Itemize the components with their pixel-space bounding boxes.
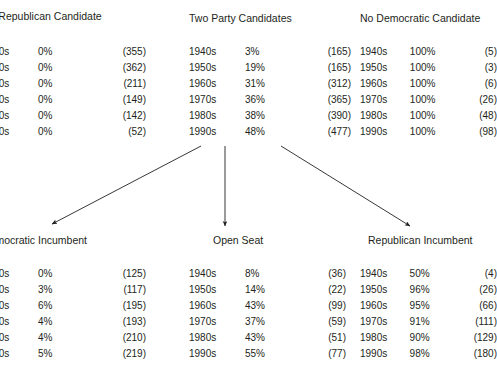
cell-decade: 1980s (189, 330, 245, 346)
cell-decade: 1980s (0, 330, 38, 346)
cell-count: (3) (462, 60, 497, 76)
cell-percent: 14% (245, 282, 301, 298)
cell-percent: 91% (410, 314, 458, 330)
cell-decade: 1950s (360, 282, 410, 298)
cell-decade: 1980s (360, 108, 410, 124)
cell-count: (193) (96, 314, 146, 330)
cell-percent: 6% (38, 298, 96, 314)
table-row: 1950s 19% (165) (189, 60, 351, 76)
cell-percent: 50% (410, 266, 458, 282)
cell-percent: 43% (245, 298, 301, 314)
cell-count: (4) (458, 266, 497, 282)
table-row: 1960s 43% (99) (189, 298, 346, 314)
cell-percent: 5% (38, 346, 96, 362)
arrow-two-party-to-republican-incumbent (281, 146, 410, 226)
cell-percent: 36% (245, 92, 301, 108)
cell-decade: 1990s (189, 124, 245, 140)
cell-count: (129) (458, 330, 497, 346)
cell-count: (355) (96, 44, 146, 60)
cell-percent: 37% (245, 314, 301, 330)
cell-decade: 1940s (360, 266, 410, 282)
arrow-two-party-to-democratic-incumbent (52, 146, 201, 224)
cell-percent: 31% (245, 76, 301, 92)
cell-decade: 1940s (360, 44, 410, 60)
cell-count: (66) (458, 298, 497, 314)
cell-count: (22) (301, 282, 346, 298)
panel-title-no-republican-candidate: No Republican Candidate (0, 10, 146, 22)
cell-percent: 90% (410, 330, 458, 346)
cell-decade: 1970s (0, 92, 38, 108)
cell-percent: 3% (245, 44, 301, 60)
cell-decade: 1990s (189, 346, 245, 362)
cell-count: (390) (301, 108, 351, 124)
cell-percent: 38% (245, 108, 301, 124)
cell-count: (48) (462, 108, 497, 124)
cell-decade: 1940s (0, 266, 38, 282)
cell-count: (77) (301, 346, 346, 362)
cell-decade: 1960s (189, 298, 245, 314)
cell-count: (312) (301, 76, 351, 92)
cell-decade: 1970s (189, 92, 245, 108)
cell-count: (99) (301, 298, 346, 314)
table-row: 1950s 100% (3) (360, 60, 497, 76)
panel-two-party-candidates: Two Party Candidates 1940s 3% (165) 1950… (189, 12, 351, 140)
cell-decade: 1960s (189, 76, 245, 92)
cell-decade: 1980s (0, 108, 38, 124)
table-two-party-candidates: 1940s 3% (165) 1950s 19% (165) 1960s 31%… (189, 44, 351, 140)
table-no-democratic-candidate: 1940s 100% (5) 1950s 100% (3) 1960s 100%… (360, 44, 497, 140)
table-open-seat: 1940s 8% (36) 1950s 14% (22) 1960s 43% (… (189, 266, 346, 362)
cell-percent: 0% (38, 44, 96, 60)
table-row: 1990s 48% (477) (189, 124, 351, 140)
cell-percent: 4% (38, 330, 96, 346)
cell-count: (142) (96, 108, 146, 124)
cell-decade: 1950s (0, 60, 38, 76)
cell-count: (195) (96, 298, 146, 314)
cell-percent: 100% (410, 76, 462, 92)
cell-decade: 1940s (0, 44, 38, 60)
table-row: 1950s 14% (22) (189, 282, 346, 298)
cell-decade: 1960s (360, 76, 410, 92)
cell-count: (59) (301, 314, 346, 330)
cell-decade: 1940s (189, 266, 245, 282)
table-row: 1940s 50% (4) (360, 266, 497, 282)
cell-count: (211) (96, 76, 146, 92)
cell-decade: 1960s (0, 76, 38, 92)
table-row: 1950s 3% (117) (0, 282, 146, 298)
panel-open-seat: Open Seat 1940s 8% (36) 1950s 14% (22) 1… (189, 234, 346, 362)
cell-decade: 1950s (0, 282, 38, 298)
cell-percent: 98% (410, 346, 458, 362)
cell-percent: 0% (38, 108, 96, 124)
cell-count: (365) (301, 92, 351, 108)
cell-decade: 1980s (189, 108, 245, 124)
panel-title-two-party-candidates: Two Party Candidates (189, 12, 351, 24)
cell-percent: 43% (245, 330, 301, 346)
table-row: 1990s 5% (219) (0, 346, 146, 362)
panel-no-democratic-candidate: No Democratic Candidate 1940s 100% (5) 1… (360, 12, 497, 140)
panel-title-republican-incumbent: Republican Incumbent (368, 234, 497, 246)
cell-percent: 55% (245, 346, 301, 362)
table-row: 1950s 96% (26) (360, 282, 497, 298)
table-row: 1970s 36% (365) (189, 92, 351, 108)
cell-percent: 100% (410, 92, 462, 108)
table-row: 1950s 0% (362) (0, 60, 146, 76)
table-row: 1970s 4% (193) (0, 314, 146, 330)
cell-count: (362) (96, 60, 146, 76)
table-row: 1960s 31% (312) (189, 76, 351, 92)
table-no-republican-candidate: 1940s 0% (355) 1950s 0% (362) 1960s 0% (… (0, 44, 146, 140)
cell-count: (210) (96, 330, 146, 346)
cell-decade: 1990s (0, 124, 38, 140)
cell-decade: 1960s (0, 298, 38, 314)
table-row: 1980s 4% (210) (0, 330, 146, 346)
cell-count: (6) (462, 76, 497, 92)
table-row: 1980s 0% (142) (0, 108, 146, 124)
cell-count: (52) (96, 124, 146, 140)
cell-percent: 95% (410, 298, 458, 314)
table-row: 1940s 8% (36) (189, 266, 346, 282)
cell-decade: 1940s (189, 44, 245, 60)
cell-decade: 1950s (189, 60, 245, 76)
table-row: 1940s 100% (5) (360, 44, 497, 60)
cell-percent: 100% (410, 60, 462, 76)
cell-count: (26) (458, 282, 497, 298)
cell-count: (125) (96, 266, 146, 282)
table-row: 1940s 3% (165) (189, 44, 351, 60)
